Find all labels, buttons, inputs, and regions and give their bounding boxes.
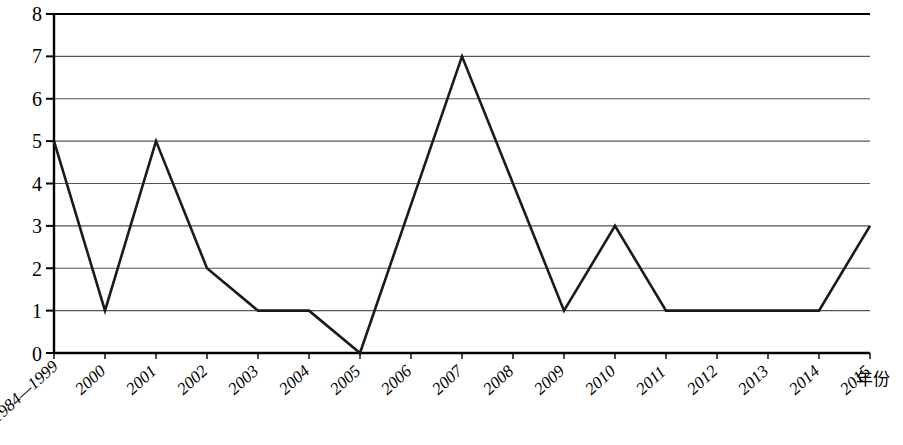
line-chart: 8 7 6 5 4 3 2 1 0 1984—19992000200120022…: [0, 0, 903, 445]
gridlines: [54, 56, 870, 310]
x-axis-title: 年份: [856, 371, 890, 388]
data-series-line: [54, 56, 870, 353]
